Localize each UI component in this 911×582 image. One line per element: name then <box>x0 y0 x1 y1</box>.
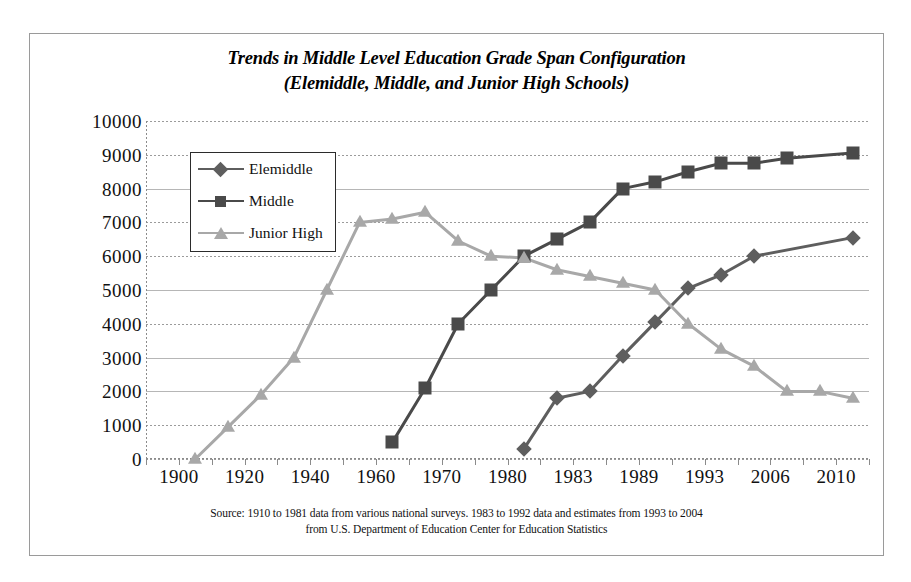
data-point-marker <box>714 342 728 354</box>
x-axis-tick <box>738 459 739 465</box>
data-point-marker <box>385 212 399 224</box>
data-point-marker <box>320 283 334 295</box>
legend-label: Junior High <box>249 224 323 242</box>
legend-item-junior-high[interactable]: Junior High <box>191 217 335 249</box>
y-axis-tick-label: 1000 <box>102 416 142 435</box>
y-axis-tick-label: 6000 <box>102 247 142 266</box>
data-point-marker <box>188 452 202 464</box>
chart-frame: Trends in Middle Level Education Grade S… <box>29 33 884 556</box>
x-axis-tick <box>277 459 278 465</box>
data-point-marker <box>583 269 597 281</box>
data-point-marker <box>648 283 662 295</box>
x-axis-tick-label: 1980 <box>488 467 527 486</box>
x-axis-tick <box>212 459 213 465</box>
data-point-marker <box>254 388 268 400</box>
legend-label: Middle <box>249 192 294 210</box>
legend-swatch <box>198 162 244 176</box>
x-axis-tick <box>770 459 771 465</box>
chart-legend: ElemiddleMiddleJunior High <box>190 152 336 252</box>
data-point-marker <box>517 251 531 263</box>
data-point-marker <box>550 233 563 246</box>
legend-swatch <box>198 194 244 208</box>
chart-title-line2: (Elemiddle, Middle, and Junior High Scho… <box>30 71 883 96</box>
data-point-marker <box>616 276 630 288</box>
data-point-marker <box>221 420 235 432</box>
x-axis-tick <box>475 459 476 465</box>
x-axis-tick <box>376 459 377 465</box>
y-axis-tick-label: 8000 <box>102 179 142 198</box>
x-axis-tick-label: 1940 <box>291 467 330 486</box>
x-axis-tick <box>803 459 804 465</box>
x-axis-tick <box>869 459 870 465</box>
data-point-marker <box>452 317 465 330</box>
source-line2: from U.S. Department of Education Center… <box>30 521 883 537</box>
x-axis-tick-label: 1989 <box>619 467 658 486</box>
data-point-marker <box>846 147 859 160</box>
data-point-marker <box>649 175 662 188</box>
data-point-marker <box>747 359 761 371</box>
y-axis-tick-label: 2000 <box>102 382 142 401</box>
x-axis-tick-label: 1983 <box>554 467 593 486</box>
y-axis-tick-label: 0 <box>132 450 142 469</box>
data-point-marker <box>353 215 367 227</box>
chart-title-line1: Trends in Middle Level Education Grade S… <box>227 48 685 68</box>
x-axis-tick <box>705 459 706 465</box>
legend-label: Elemiddle <box>249 160 313 178</box>
x-axis-tick <box>508 459 509 465</box>
x-axis-tick <box>540 459 541 465</box>
data-point-marker <box>846 391 860 403</box>
legend-marker-triangle-icon <box>214 227 228 239</box>
x-axis-tick <box>245 459 246 465</box>
data-point-marker <box>287 350 301 362</box>
data-point-marker <box>451 234 465 246</box>
x-axis-tick <box>409 459 410 465</box>
chart-title: Trends in Middle Level Education Grade S… <box>30 46 883 96</box>
legend-item-middle[interactable]: Middle <box>191 185 335 217</box>
x-axis-tick-label: 1970 <box>422 467 461 486</box>
y-axis-tick-label: 9000 <box>102 145 142 164</box>
x-axis-tick-label: 2010 <box>817 467 856 486</box>
y-axis-tick-label: 7000 <box>102 213 142 232</box>
x-axis-tick-label: 2006 <box>751 467 790 486</box>
data-point-marker <box>485 284 498 297</box>
legend-marker-square-icon <box>215 196 226 207</box>
x-axis-tick-label: 1960 <box>356 467 395 486</box>
data-point-marker <box>418 205 432 217</box>
data-point-marker <box>715 157 728 170</box>
y-axis-tick-label: 3000 <box>102 348 142 367</box>
data-point-marker <box>583 216 596 229</box>
x-axis-tick <box>606 459 607 465</box>
y-axis-tick-label: 5000 <box>102 281 142 300</box>
data-point-marker <box>747 157 760 170</box>
data-point-marker <box>616 182 629 195</box>
x-axis-tick <box>146 459 147 465</box>
x-axis-tick <box>639 459 640 465</box>
data-point-marker <box>550 263 564 275</box>
x-axis-tick <box>442 459 443 465</box>
x-axis-tick <box>573 459 574 465</box>
source-note: Source: 1910 to 1981 data from various n… <box>30 505 883 537</box>
legend-marker-diamond-icon <box>213 162 229 178</box>
series-line-middle <box>392 153 852 442</box>
legend-swatch <box>198 226 244 240</box>
source-line1: Source: 1910 to 1981 data from various n… <box>210 507 702 519</box>
data-point-marker <box>780 152 793 165</box>
x-axis-tick <box>310 459 311 465</box>
x-axis-tick <box>672 459 673 465</box>
data-point-marker <box>681 317 695 329</box>
data-point-marker <box>780 384 794 396</box>
x-axis-tick-label: 1920 <box>225 467 264 486</box>
legend-item-elemiddle[interactable]: Elemiddle <box>191 153 335 185</box>
series-line-elemiddle <box>524 238 853 449</box>
y-axis-tick-label: 4000 <box>102 314 142 333</box>
data-point-marker <box>813 384 827 396</box>
x-axis-tick-label: 1900 <box>159 467 198 486</box>
x-axis-tick <box>343 459 344 465</box>
data-point-marker <box>386 436 399 449</box>
x-axis-tick <box>179 459 180 465</box>
x-axis-tick <box>836 459 837 465</box>
data-point-marker <box>484 249 498 261</box>
data-point-marker <box>682 165 695 178</box>
x-axis-tick-label: 1993 <box>685 467 724 486</box>
y-axis-tick-label: 10000 <box>92 112 142 131</box>
